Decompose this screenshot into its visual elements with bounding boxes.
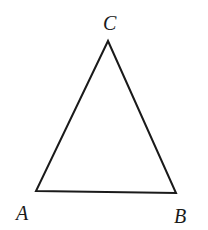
vertex-label-a: A — [14, 202, 29, 224]
vertex-label-b: B — [174, 205, 186, 227]
triangle-abc — [36, 41, 176, 193]
vertex-label-c: C — [103, 12, 117, 34]
triangle-diagram: A B C — [0, 0, 208, 230]
